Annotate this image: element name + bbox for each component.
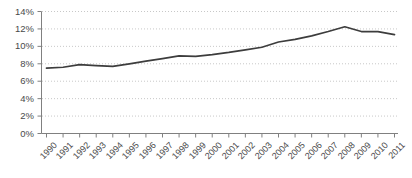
data-series-line xyxy=(47,27,395,68)
y-axis-label-10%: 10% xyxy=(2,40,34,51)
y-axis-label-2%: 2% xyxy=(2,110,34,121)
y-tick-marks-group xyxy=(38,12,42,134)
y-axis-label-12%: 12% xyxy=(2,23,34,34)
line-chart: 0%2%4%6%8%10%12%14% 19901991199219931994… xyxy=(0,0,412,178)
y-axis-label-14%: 14% xyxy=(2,6,34,17)
y-axis-label-6%: 6% xyxy=(2,75,34,86)
axes-group xyxy=(42,12,399,134)
y-axis-label-8%: 8% xyxy=(2,58,34,69)
x-tick-marks-group xyxy=(47,134,395,138)
y-axis-label-0%: 0% xyxy=(2,128,34,139)
y-axis-label-4%: 4% xyxy=(2,93,34,104)
